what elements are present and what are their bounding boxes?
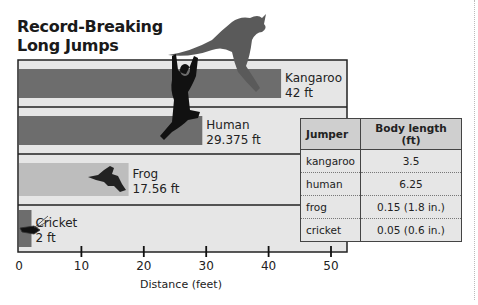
category-label-human: Human <box>206 118 249 132</box>
x-tick-label: 40 <box>261 259 276 273</box>
body-length-table: Jumper Body length (ft) kangaroo 3.5 hum… <box>300 118 462 242</box>
table-cell-body-length: 6.25 <box>361 173 462 196</box>
x-axis-label: Distance (feet) <box>140 278 222 291</box>
table-header-row: Jumper Body length (ft) <box>301 119 462 150</box>
table-cell-jumper: kangaroo <box>301 150 361 173</box>
x-tick-label: 10 <box>74 259 89 273</box>
x-tick-label: 20 <box>136 259 151 273</box>
value-label-human: 29.375 ft <box>206 133 261 147</box>
category-label-cricket: Cricket <box>35 216 77 230</box>
value-label-kangaroo: 42 ft <box>285 86 313 100</box>
x-tick-label: 50 <box>323 259 338 273</box>
table-row: frog 0.15 (1.8 in.) <box>301 196 462 219</box>
x-tick-label: 30 <box>199 259 214 273</box>
category-label-kangaroo: Kangaroo <box>285 71 342 85</box>
table-cell-jumper: frog <box>301 196 361 219</box>
page-edge-dotted-line <box>474 0 476 300</box>
category-label-frog: Frog <box>133 167 159 181</box>
table-header-jumper: Jumper <box>301 119 361 150</box>
table-header-body-length: Body length (ft) <box>361 119 462 150</box>
table-row: kangaroo 3.5 <box>301 150 462 173</box>
table-cell-jumper: human <box>301 173 361 196</box>
table-row: cricket 0.05 (0.6 in.) <box>301 219 462 242</box>
table-cell-body-length: 3.5 <box>361 150 462 173</box>
table-cell-body-length: 0.05 (0.6 in.) <box>361 219 462 242</box>
x-tick-label: 0 <box>15 259 23 273</box>
table-cell-jumper: cricket <box>301 219 361 242</box>
value-label-cricket: 2 ft <box>35 231 55 245</box>
table-cell-body-length: 0.15 (1.8 in.) <box>361 196 462 219</box>
value-label-frog: 17.56 ft <box>133 182 180 196</box>
table-row: human 6.25 <box>301 173 462 196</box>
